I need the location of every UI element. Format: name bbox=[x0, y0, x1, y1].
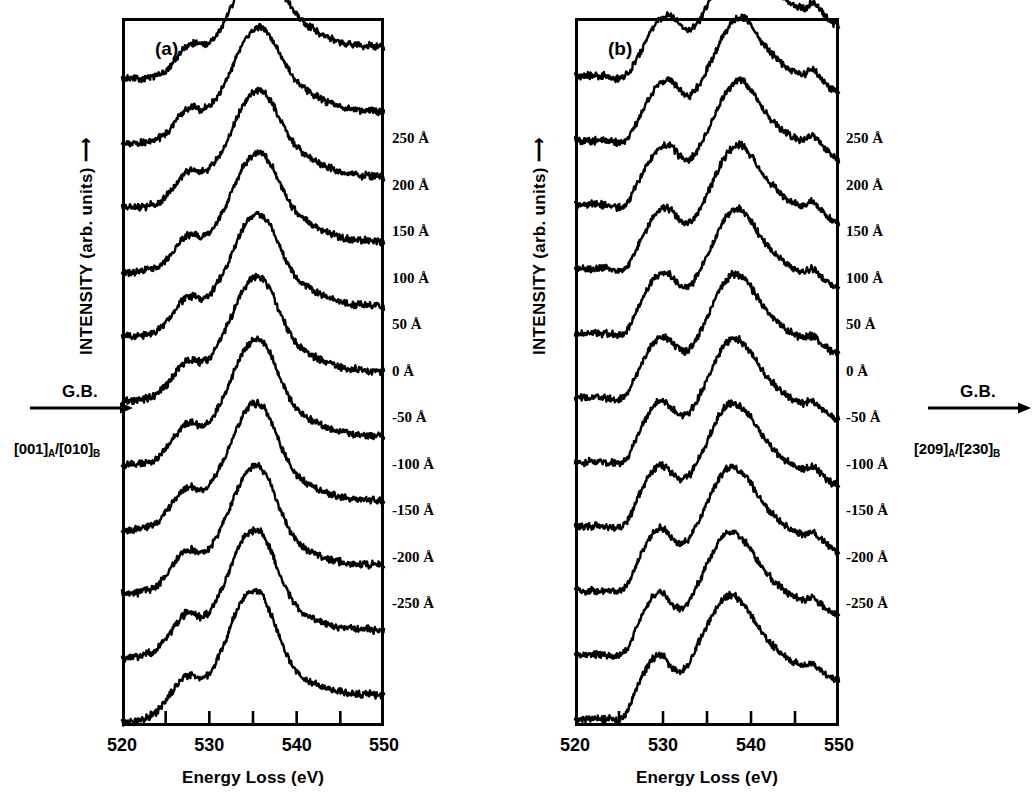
depth-label: -50 Å bbox=[392, 409, 427, 426]
orientation-suffix-a: [010] bbox=[59, 440, 93, 457]
orientation-label-a: [001]A/[010]B bbox=[14, 440, 100, 457]
panel-letter-a: (a) bbox=[155, 38, 178, 60]
x-tick-label: 530 bbox=[194, 735, 224, 756]
depth-label: -150 Å bbox=[846, 502, 888, 519]
plot-frame-a bbox=[122, 18, 384, 726]
depth-label: -150 Å bbox=[392, 502, 434, 519]
depth-label: -250 Å bbox=[392, 595, 434, 612]
x-tick-label: 520 bbox=[560, 735, 590, 756]
orientation-sub-b-a: B bbox=[93, 448, 100, 459]
x-axis-title-b: Energy Loss (eV) bbox=[636, 768, 778, 788]
gb-label-b: G.B. bbox=[924, 383, 1032, 401]
x-tick-label: 520 bbox=[107, 735, 137, 756]
panel-letter-b: (b) bbox=[608, 38, 632, 60]
depth-label: 100 Å bbox=[846, 269, 883, 286]
x-tick-label: 550 bbox=[369, 735, 399, 756]
depth-label: 0 Å bbox=[392, 362, 414, 379]
depth-label: 50 Å bbox=[392, 316, 422, 333]
gb-arrow-icon-b bbox=[924, 401, 1032, 417]
depth-label: 150 Å bbox=[846, 223, 883, 240]
plot-frame-b bbox=[575, 18, 839, 726]
y-axis-label-a: INTENSITY (arb. units) ⟶ bbox=[76, 138, 97, 355]
orientation-sub-a-a: A bbox=[48, 448, 55, 459]
depth-label: -50 Å bbox=[846, 409, 881, 426]
depth-label: 250 Å bbox=[392, 130, 429, 147]
grain-boundary-marker-a: G.B. bbox=[26, 383, 134, 417]
panel-b: (b) INTENSITY (arb. units) ⟶ G.B. [209]A… bbox=[450, 0, 900, 806]
x-tick-label: 540 bbox=[736, 735, 766, 756]
depth-label: 200 Å bbox=[392, 176, 429, 193]
x-axis-title-a: Energy Loss (eV) bbox=[182, 768, 324, 788]
orientation-prefix-a: [001] bbox=[14, 440, 48, 457]
depth-label: 0 Å bbox=[846, 362, 868, 379]
x-tick-label: 550 bbox=[824, 735, 854, 756]
depth-label: -200 Å bbox=[392, 548, 434, 565]
depth-label: 150 Å bbox=[392, 223, 429, 240]
depth-label-list-b: 250 Å200 Å150 Å100 Å50 Å0 Å-50 Å-100 Å-1… bbox=[846, 0, 916, 806]
orientation-suffix-b: [230] bbox=[959, 440, 993, 457]
grain-boundary-marker-b: G.B. bbox=[924, 383, 1032, 417]
orientation-label-b: [209]A/[230]B bbox=[914, 440, 1000, 457]
orientation-sub-b-b: B bbox=[993, 448, 1000, 459]
depth-label: 50 Å bbox=[846, 316, 876, 333]
y-axis-label-b: INTENSITY (arb. units) ⟶ bbox=[529, 138, 550, 355]
depth-label: 250 Å bbox=[846, 130, 883, 147]
x-tick-label: 530 bbox=[648, 735, 678, 756]
orientation-prefix-b: [209] bbox=[914, 440, 948, 457]
depth-label: -100 Å bbox=[392, 455, 434, 472]
gb-arrow-icon-a bbox=[26, 401, 134, 417]
depth-label: -250 Å bbox=[846, 595, 888, 612]
depth-label: -100 Å bbox=[846, 455, 888, 472]
panel-a: (a) INTENSITY (arb. units) ⟶ G.B. [001]A… bbox=[0, 0, 450, 806]
gb-label-a: G.B. bbox=[26, 383, 134, 401]
depth-label: 200 Å bbox=[846, 176, 883, 193]
x-tick-label: 540 bbox=[282, 735, 312, 756]
orientation-sub-a-b: A bbox=[948, 448, 955, 459]
depth-label: 100 Å bbox=[392, 269, 429, 286]
depth-label: -200 Å bbox=[846, 548, 888, 565]
